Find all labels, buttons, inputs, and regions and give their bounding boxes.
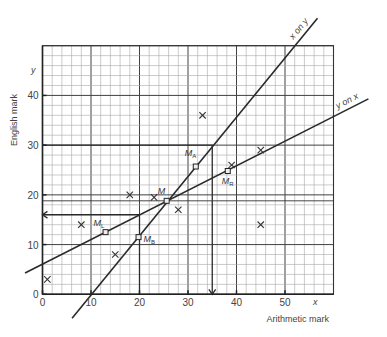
y-tick-label: 30 (27, 140, 39, 151)
scatter-chart: y on xx on y MMLMRMAMB 01020304050010203… (0, 0, 387, 337)
regression-line-label: x on y (287, 16, 311, 42)
mean-label-subscript: R (229, 181, 234, 187)
data-points (44, 112, 264, 282)
grid (43, 46, 334, 295)
y-tick-label: 40 (27, 90, 39, 101)
mean-label-subscript: B (151, 239, 155, 245)
regression-line-label: y on x (333, 91, 360, 111)
mean-point-MB (136, 235, 141, 240)
x-tick-label: 50 (279, 297, 291, 308)
data-point (258, 147, 264, 153)
y-axis-title: English mark (9, 93, 19, 146)
mean-label-MA: MA (185, 148, 197, 159)
y-axis-variable: y (30, 65, 36, 75)
data-point (44, 276, 50, 282)
y-tick-label: 10 (27, 240, 39, 251)
x-tick-label: 30 (182, 297, 194, 308)
mean-label-subscript: A (192, 153, 196, 159)
mean-label-M: M (158, 186, 166, 196)
mean-points: MMLMRMAMB (94, 148, 235, 246)
reading-line (43, 145, 213, 294)
x-tick-label: 10 (85, 297, 97, 308)
y-tick-label: 20 (27, 190, 39, 201)
mean-label-MB: MB (144, 234, 156, 245)
mean-label-ML: ML (94, 218, 106, 229)
x-axis-variable: x (312, 297, 318, 307)
mean-point-MR (225, 168, 230, 173)
x-tick-label: 0 (40, 297, 46, 308)
x-tick-label: 40 (231, 297, 243, 308)
y-tick-label: 0 (33, 289, 39, 300)
mean-point-MA (193, 164, 198, 169)
mean-point-ML (103, 230, 108, 235)
mean-label-subscript: L (101, 223, 105, 229)
mean-label-MR: MR (222, 176, 235, 187)
x-axis-title: Arithmetic mark (266, 314, 329, 324)
mean-point-M (164, 198, 169, 203)
x-tick-label: 20 (134, 297, 146, 308)
